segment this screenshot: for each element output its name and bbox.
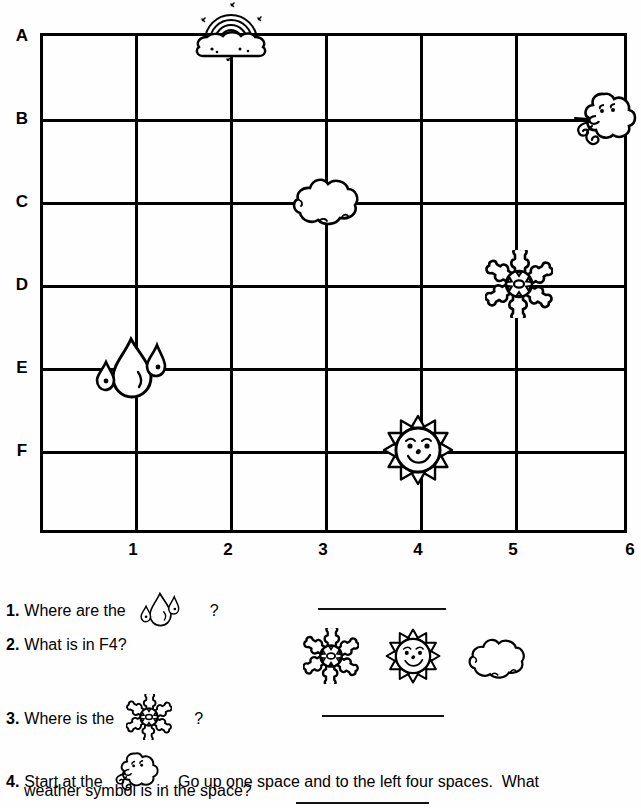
question-2-number: 2. — [6, 636, 19, 654]
cloud-icon — [290, 173, 362, 229]
grid-vline-1 — [135, 36, 138, 530]
raindrops-icon — [95, 331, 171, 403]
row-label-b: B — [16, 110, 28, 127]
row-label-f: F — [17, 442, 27, 459]
question-4-line2: weather symbol is in the space? — [24, 782, 252, 800]
rainbow-cloud-icon — [193, 0, 269, 61]
question-4-line2-text: weather symbol is in the space? — [24, 782, 252, 800]
grid-vline-3 — [325, 36, 328, 530]
questions-section: 1. Where are the ? 2. What is in F4? — [0, 560, 641, 808]
snowflake-icon — [126, 694, 172, 744]
raindrops-icon — [140, 588, 182, 634]
grid-hline-f — [43, 451, 624, 454]
answer-blank-3[interactable] — [322, 715, 444, 717]
question-1: 1. Where are the ? — [6, 588, 219, 634]
col-label-4: 4 — [413, 541, 422, 558]
col-label-2: 2 — [223, 541, 232, 558]
answer-blank-1[interactable] — [318, 608, 446, 610]
question-3-suffix: ? — [194, 710, 203, 728]
col-label-3: 3 — [318, 541, 327, 558]
col-label-6: 6 — [625, 541, 634, 558]
answer-choice-sun[interactable] — [385, 628, 441, 688]
wind-cloud-icon — [574, 85, 641, 151]
grid-vline-2 — [230, 36, 233, 530]
row-label-e: E — [16, 359, 27, 376]
question-4-number: 4. — [6, 773, 19, 791]
question-3-number: 3. — [6, 710, 19, 728]
question-3-text: Where is the — [24, 710, 114, 728]
answer-choice-snowflake[interactable] — [303, 628, 359, 688]
question-2: 2. What is in F4? — [6, 636, 127, 654]
col-label-1: 1 — [128, 541, 137, 558]
snowflake-icon — [485, 250, 553, 318]
question-1-suffix: ? — [210, 602, 219, 620]
grid-hline-b — [43, 119, 624, 122]
answer-choice-cloud[interactable] — [466, 634, 528, 686]
row-label-c: C — [16, 193, 28, 210]
question-2-text: What is in F4? — [24, 636, 126, 654]
question-3: 3. Where is the — [6, 694, 203, 744]
question-1-number: 1. — [6, 602, 19, 620]
coordinate-grid-section: A B C D E F 1 2 3 4 5 6 — [0, 0, 641, 560]
row-label-a: A — [16, 27, 28, 44]
row-label-d: D — [16, 276, 28, 293]
col-label-5: 5 — [508, 541, 517, 558]
sun-icon — [382, 414, 454, 486]
question-1-text: Where are the — [24, 602, 125, 620]
answer-blank-4[interactable] — [296, 802, 429, 804]
